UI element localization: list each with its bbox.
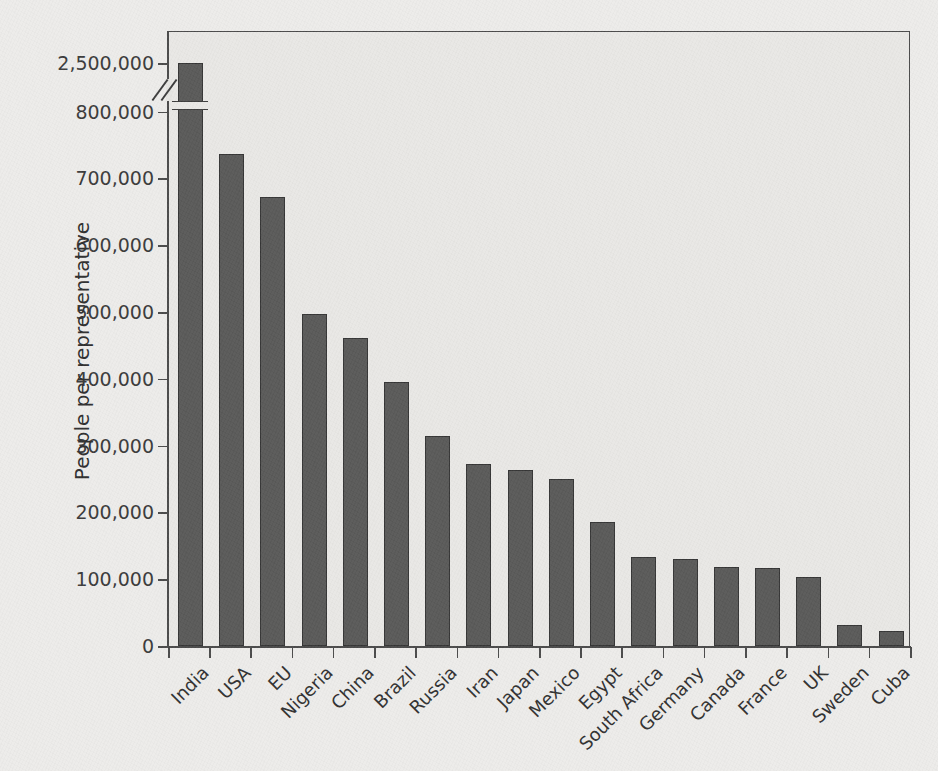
y-tick-mark xyxy=(158,579,168,581)
bar xyxy=(466,464,491,646)
bar xyxy=(260,197,285,646)
bar xyxy=(425,436,450,646)
bar xyxy=(384,382,409,646)
bar-chart: 0100,000200,000300,000400,000500,000600,… xyxy=(0,0,938,771)
plot-area xyxy=(168,31,910,647)
x-axis-tick-label: UK xyxy=(817,644,850,677)
y-tick-mark xyxy=(158,312,168,314)
bar xyxy=(302,314,327,646)
bar xyxy=(343,338,368,646)
cropped-title-text-top xyxy=(0,0,938,4)
y-tick-mark xyxy=(158,512,168,514)
y-tick-mark xyxy=(158,245,168,247)
y-axis-line xyxy=(167,31,169,647)
bar xyxy=(837,625,862,646)
y-tick-mark xyxy=(158,63,168,65)
x-tick-mark xyxy=(168,647,170,658)
axis-break-icon xyxy=(152,75,178,105)
y-tick-label: 0 xyxy=(142,635,154,657)
y-axis-title: People per representative xyxy=(70,101,94,601)
y-tick-label: 2,500,000 xyxy=(57,52,154,74)
x-axis-tick-label: EU xyxy=(281,645,313,677)
bar xyxy=(508,470,533,646)
bar xyxy=(219,154,244,646)
y-tick-mark xyxy=(158,112,168,114)
cropped-caption-text-bottom xyxy=(0,767,938,771)
y-tick-mark xyxy=(158,379,168,381)
y-tick-mark xyxy=(158,646,168,648)
bar xyxy=(549,479,574,646)
y-tick-mark xyxy=(158,446,168,448)
y-tick-mark xyxy=(158,178,168,180)
bar xyxy=(178,63,203,646)
